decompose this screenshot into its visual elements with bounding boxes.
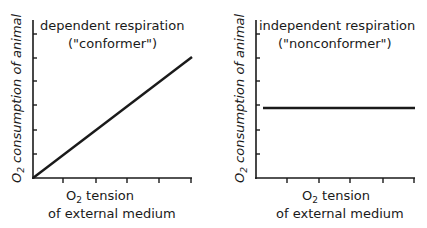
chart-subtitle: ("conformer") (68, 36, 157, 51)
conformer-line (33, 57, 192, 178)
x-axis-label: O2 tension (302, 188, 370, 205)
x-axis-label-line2: of external medium (276, 206, 404, 221)
figure: dependent respiration ("conformer") O2 c… (0, 0, 427, 228)
chart-subtitle: ("nonconformer") (278, 36, 392, 51)
chart-nonconformer: independent respiration ("nonconformer")… (232, 13, 415, 221)
x-axis-label-line2: of external medium (48, 206, 176, 221)
y-axis-label: O2 consumption of animal (232, 13, 249, 183)
x-axis-label: O2 tension (66, 188, 134, 205)
chart-title: dependent respiration (40, 18, 184, 33)
chart-title: independent respiration (259, 18, 415, 33)
chart-conformer: dependent respiration ("conformer") O2 c… (9, 13, 192, 221)
y-axis-label: O2 consumption of animal (9, 13, 26, 183)
